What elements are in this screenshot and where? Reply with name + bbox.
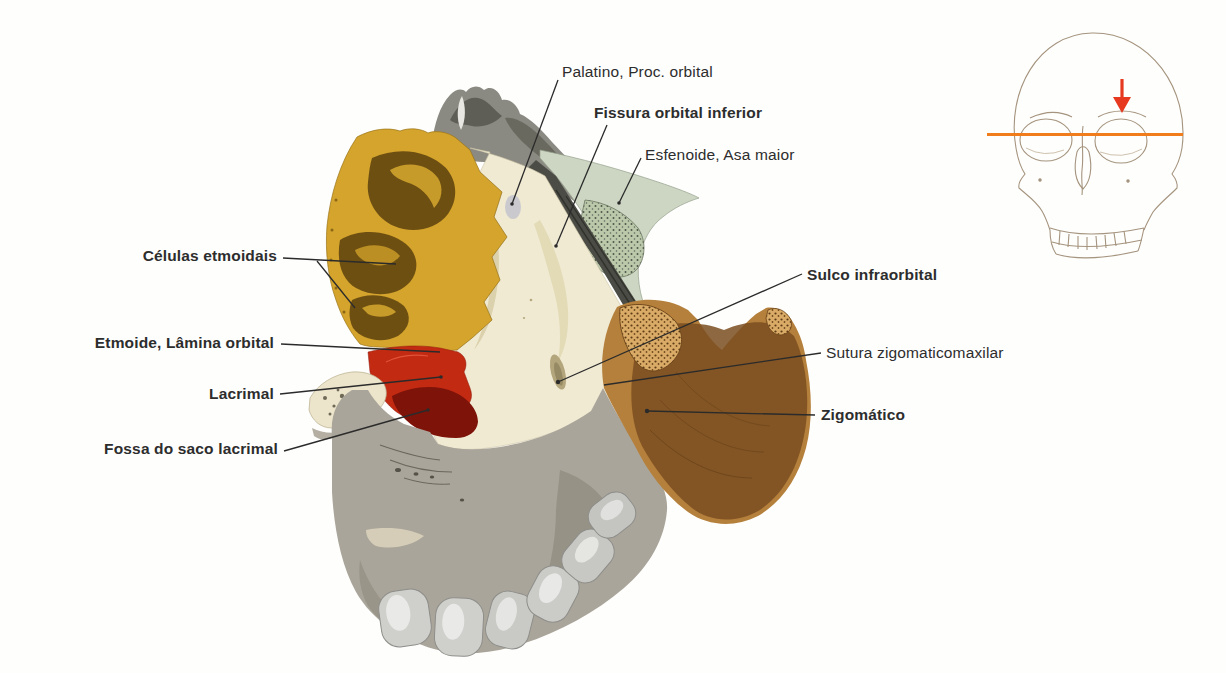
label-fissura: Fissura orbital inferior — [594, 104, 762, 121]
inset-skull-outline — [1014, 33, 1183, 258]
label-lacrimal: Lacrimal — [209, 385, 274, 402]
ethmoid-bone — [326, 129, 507, 351]
label-celulas: Células etmoidais — [143, 247, 277, 264]
label-sutura: Sutura zigomaticomaxilar — [826, 344, 1004, 361]
palatine-process-patch — [505, 195, 521, 219]
label-etmoide: Etmoide, Lâmina orbital — [95, 334, 274, 351]
label-fossa: Fossa do saco lacrimal — [104, 440, 278, 457]
label-zigomatico: Zigomático — [821, 406, 905, 423]
label-palatino: Palatino, Proc. orbital — [562, 63, 713, 80]
inset-orbit-detail — [1026, 148, 1142, 155]
label-esfenoide: Esfenoide, Asa maior — [645, 146, 794, 163]
label-sulco: Sulco infraorbital — [807, 266, 937, 283]
inset-arrow-icon — [1113, 79, 1131, 113]
figure-page: Palatino, Proc. orbital Fissura orbital … — [0, 0, 1226, 673]
orientation-inset — [987, 33, 1183, 258]
